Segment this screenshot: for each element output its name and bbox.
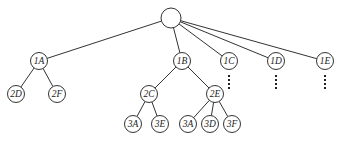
tree-node: 1C — [221, 53, 238, 70]
edge-n2E-n3A_2 — [194, 100, 210, 117]
edge-n1B-n2C — [155, 67, 176, 88]
vertical-ellipsis-icon — [275, 75, 277, 89]
tree-node: 1A — [31, 53, 48, 70]
node-circle — [161, 8, 181, 28]
tree-node: 3A — [125, 116, 142, 133]
edge-n2E-n3F — [219, 101, 228, 116]
edge-root-n1C — [179, 24, 222, 56]
node-label: 3E — [154, 119, 166, 129]
node-label: 3D — [203, 119, 216, 129]
node-label: 2F — [52, 89, 63, 99]
tree-node: 3A — [180, 116, 197, 133]
tree-node: 3E — [152, 116, 169, 133]
edge-root-n1B — [173, 28, 179, 53]
edge-root-n1A — [47, 21, 161, 58]
continuation-ellipses — [228, 75, 326, 89]
tree-nodes: 1A1B1C1D1E2D2F2C2E3A3E3A3D3F — [8, 8, 334, 133]
root-node — [161, 8, 181, 28]
node-label: 2E — [210, 89, 221, 99]
tree-diagram: 1A1B1C1D1E2D2F2C2E3A3E3A3D3F — [0, 0, 343, 143]
tree-node: 2E — [207, 86, 224, 103]
vertical-ellipsis-icon — [228, 75, 230, 89]
tree-node: 2F — [49, 86, 66, 103]
tree-node: 1E — [317, 53, 334, 70]
node-label: 1A — [34, 56, 45, 66]
edge-n2C-n3A_1 — [137, 102, 145, 117]
edge-n1B-n2E — [188, 67, 209, 88]
edge-root-n1D — [180, 22, 268, 58]
node-label: 1B — [177, 56, 188, 66]
node-label: 3A — [127, 119, 139, 129]
tree-node: 2D — [8, 86, 25, 103]
tree-node: 3F — [224, 116, 241, 133]
node-label: 2C — [143, 89, 155, 99]
tree-node: 2C — [141, 86, 158, 103]
tree-node: 1B — [174, 53, 191, 70]
edge-n2E-n3D — [211, 102, 213, 115]
node-label: 1E — [320, 56, 331, 66]
node-label: 3F — [226, 119, 238, 129]
edge-n1A-n2F — [43, 68, 53, 86]
node-label: 2D — [10, 89, 22, 99]
node-label: 1D — [270, 56, 282, 66]
node-label: 1C — [223, 56, 235, 66]
edge-n1A-n2D — [21, 68, 34, 87]
node-label: 3A — [182, 119, 194, 129]
vertical-ellipsis-icon — [324, 75, 326, 89]
tree-node: 1D — [268, 53, 285, 70]
tree-node: 3D — [202, 116, 219, 133]
edge-n2C-n3E — [152, 102, 157, 116]
